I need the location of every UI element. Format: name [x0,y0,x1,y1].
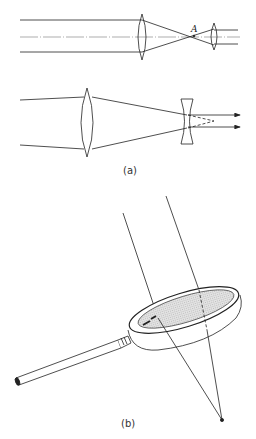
galilean-telescope-diagram [20,88,240,157]
handle [16,340,121,385]
focal-point [220,418,223,421]
caption-a: (a) [123,165,137,176]
ray-bottom-converge [92,128,187,149]
ray-right-refracted [207,330,222,420]
virtual-ray-top [188,115,214,121]
point-a-label: A [190,24,198,34]
focal-point-a [193,35,195,37]
objective-lens [81,88,93,157]
keplerian-telescope-diagram [20,14,240,60]
ray-left [123,213,158,318]
caption-b: (b) [121,418,135,429]
ray-right [166,196,199,290]
magnifying-glass-diagram [14,196,243,422]
optics-figure: A (a) [0,0,256,439]
eyepiece-lens [211,23,217,50]
diverging-eyepiece-lens [181,99,193,144]
ray-top-in [20,97,84,100]
ray-top-converge [92,97,187,115]
ray-bottom-in [20,145,84,149]
